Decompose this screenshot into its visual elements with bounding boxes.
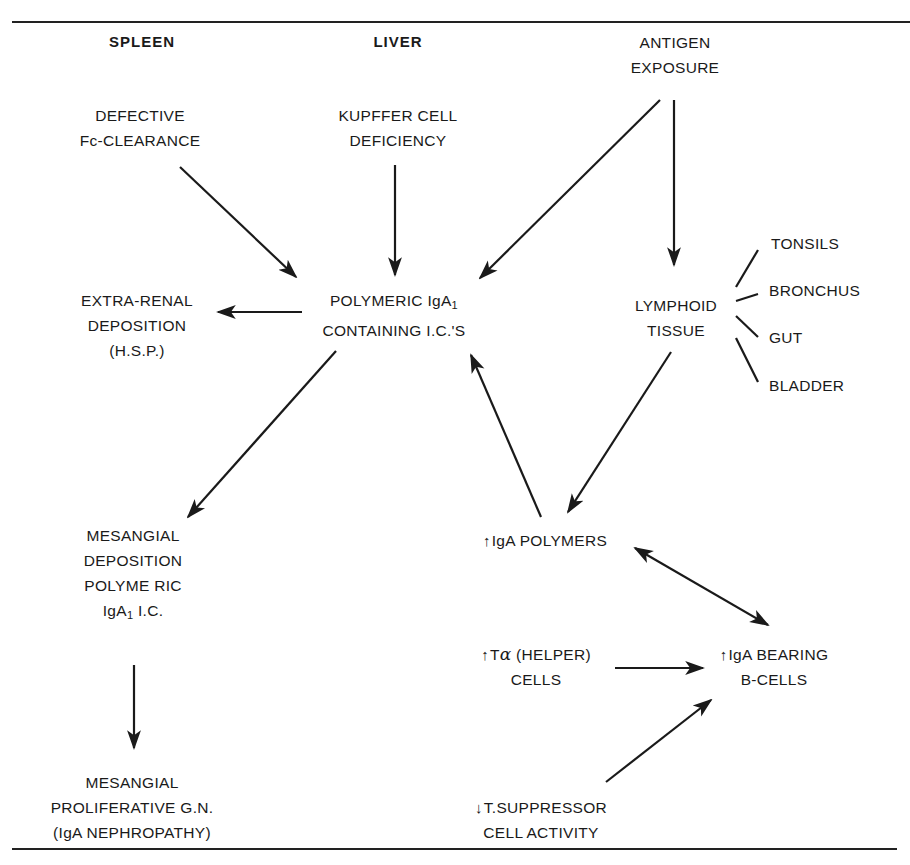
line-lymphoid-bladder <box>736 338 758 382</box>
arrow-polymeric-to-mesangial <box>188 351 336 517</box>
arrow-antigen-to-polymeric <box>480 100 660 278</box>
arrow-lymphoid-to-iga-polymers <box>568 352 671 512</box>
diagram-edges <box>0 0 910 865</box>
arrow-t-suppressor-to-b-cells <box>606 700 711 782</box>
line-lymphoid-bronchus <box>736 294 758 301</box>
line-lymphoid-gut <box>736 316 758 337</box>
line-lymphoid-tonsils <box>736 250 758 287</box>
arrow-iga-polymers-to-polymeric <box>471 355 541 517</box>
arrow-iga-polymers-b-cells-bidirectional <box>635 548 768 625</box>
arrow-fc-to-polymeric <box>180 167 296 277</box>
